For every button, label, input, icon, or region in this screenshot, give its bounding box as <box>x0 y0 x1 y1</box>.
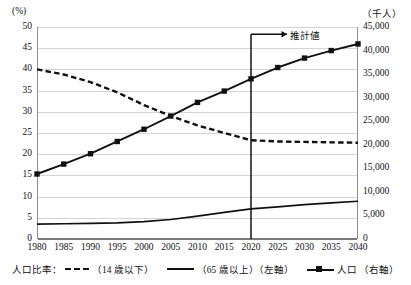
data-point-marker <box>195 100 200 105</box>
right-axis-tick-label: 30,000 <box>363 93 389 103</box>
left-axis-tick-label: 25 <box>2 128 32 138</box>
x-axis-tick-label: 1990 <box>81 243 100 253</box>
x-axis-tick-label: 2010 <box>188 243 207 253</box>
right-axis-tick-label: 25,000 <box>363 116 389 126</box>
left-axis-tick-label: 50 <box>2 22 32 32</box>
data-point-marker <box>115 139 120 144</box>
left-axis-tick-label: 40 <box>2 64 32 74</box>
left-axis-tick-label: 15 <box>2 170 32 180</box>
gridline <box>38 239 357 240</box>
legend-item-population: 人口 （右軸） <box>307 262 399 276</box>
right-axis-tick-label: 10,000 <box>363 187 389 197</box>
right-axis-tick-label: 40,000 <box>363 46 389 56</box>
data-point-marker <box>34 171 39 176</box>
right-axis-tick-label: 20,000 <box>363 140 389 150</box>
left-axis-tick-label: 10 <box>2 192 32 202</box>
data-point-marker <box>141 127 146 132</box>
chart-legend: 人口比率： （14 歳以下） （65 歳以上）（左軸） 人口 （右軸） <box>0 262 411 276</box>
x-axis-tick-label: 2000 <box>135 243 154 253</box>
left-axis-tick-label: 30 <box>2 107 32 117</box>
right-axis-tick-label: 45,000 <box>363 22 389 32</box>
left-axis-tick-label: 20 <box>2 149 32 159</box>
series-line-children-ratio <box>37 69 358 142</box>
x-axis-tick-label: 1995 <box>108 243 127 253</box>
projection-arrow-head-icon <box>282 31 288 37</box>
x-axis-tick-label: 2035 <box>322 243 341 253</box>
x-axis-tick-label: 2040 <box>349 243 368 253</box>
legend-prefix-label: 人口比率： <box>12 262 62 276</box>
x-axis-tick-label: 2030 <box>295 243 314 253</box>
x-axis-tick-label: 1985 <box>54 243 73 253</box>
x-axis-tick-label: 2025 <box>268 243 287 253</box>
dashed-line-swatch-icon <box>65 268 89 270</box>
data-point-marker <box>302 55 307 60</box>
data-point-marker <box>355 41 360 46</box>
right-axis-tick-label: 35,000 <box>363 69 389 79</box>
data-point-marker <box>275 65 280 70</box>
left-axis-unit-label: (%) <box>12 6 26 16</box>
population-ratio-chart: (%) （千人） 05101520253035404550 05,00010,0… <box>0 0 411 285</box>
legend-item-elderly: （65 歳以上）（左軸） <box>167 262 294 276</box>
data-point-marker <box>88 151 93 156</box>
legend-elderly-label: （65 歳以上）（左軸） <box>197 262 294 276</box>
x-axis-tick-label: 2005 <box>161 243 180 253</box>
data-point-marker <box>61 161 66 166</box>
x-axis-tick-label: 2015 <box>215 243 234 253</box>
legend-population-label: 人口 （右軸） <box>337 262 399 276</box>
right-axis-unit-label: （千人） <box>362 6 402 20</box>
data-point-marker <box>222 88 227 93</box>
x-axis-tick-label: 2020 <box>242 243 261 253</box>
series-layer <box>37 27 358 239</box>
legend-item-children: 人口比率： （14 歳以下） <box>12 262 154 276</box>
left-axis-tick-label: 35 <box>2 86 32 96</box>
x-axis-tick-label: 1980 <box>28 243 47 253</box>
data-point-marker <box>329 48 334 53</box>
series-line-elderly-ratio <box>37 201 358 224</box>
left-axis-tick-label: 45 <box>2 43 32 53</box>
legend-children-label: （14 歳以下） <box>92 262 154 276</box>
series-line-population <box>37 44 358 174</box>
right-axis-tick-label: 5,000 <box>363 210 384 220</box>
left-axis-tick-label: 5 <box>2 213 32 223</box>
marker-line-swatch-icon <box>307 266 334 273</box>
data-point-marker <box>168 113 173 118</box>
solid-line-swatch-icon <box>167 268 194 270</box>
right-axis-tick-label: 15,000 <box>363 163 389 173</box>
projection-annotation-label: 推計値 <box>290 28 320 42</box>
